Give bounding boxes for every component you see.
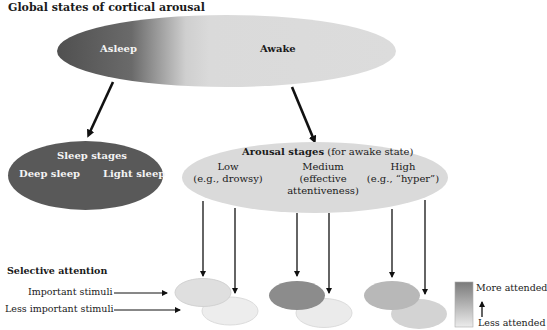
arousal-level-high-detail: (e.g., “hyper”) [363,173,443,185]
arrow-to-arousal-stages [292,87,314,140]
legend-more-attended: More attended [476,282,547,293]
arousal-level-medium-detail2: attentiveness) [278,185,368,197]
arousal-level-high: High (e.g., “hyper”) [363,161,443,185]
arousal-stages-title: Arousal stages (for awake state) [242,146,413,157]
light-sleep-label: Light sleep [103,168,165,179]
sleep-stages-title: Sleep stages [57,150,127,161]
arousal-stages-title-bold: Arousal stages [242,146,324,157]
arousal-level-high-name: High [363,161,443,173]
less-important-stimuli-label: Less important stimuli [5,303,113,314]
asleep-label: Asleep [100,43,137,54]
arousal-level-medium-name: Medium [278,161,368,173]
high-important-ellipse [364,281,420,310]
arousal-level-low-detail: (e.g., drowsy) [190,173,266,185]
low-important-ellipse [175,279,231,307]
arousal-level-low: Low (e.g., drowsy) [190,161,266,185]
legend-less-attended: Less attended [478,317,546,328]
diagram-title: Global states of cortical arousal [8,1,205,14]
arousal-level-low-name: Low [190,161,266,173]
arousal-level-medium: Medium (effective attentiveness) [278,161,368,197]
medium-important-ellipse [269,281,325,310]
deep-sleep-label: Deep sleep [19,168,80,179]
awake-label: Awake [260,43,296,54]
important-stimuli-label: Important stimuli [28,286,112,297]
attention-legend-bar [455,282,473,327]
arrow-to-sleep-stages [89,82,113,134]
arousal-stages-title-rest: (for awake state) [327,146,413,157]
arousal-level-medium-detail: (effective [278,173,368,185]
selective-attention-title: Selective attention [7,265,107,276]
